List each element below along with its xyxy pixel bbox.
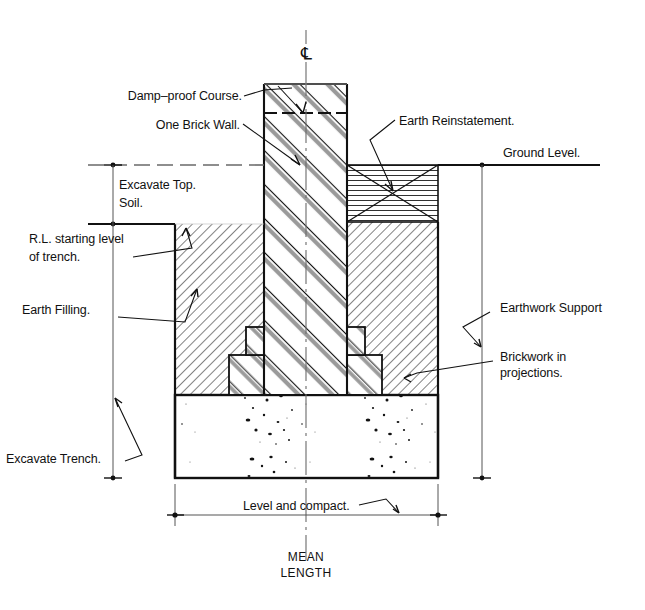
label-earth-filling: Earth Filling. <box>22 303 90 318</box>
label-mean-line1: MEAN <box>256 550 356 564</box>
rl-starting-level-line <box>88 222 175 227</box>
label-excavate-top-soil-line2: Soil. <box>119 196 143 211</box>
centreline-symbol: ℄ <box>296 44 316 64</box>
label-ground-level: Ground Level. <box>503 146 580 161</box>
technical-drawing-page: ℄ Damp–proof Course. One Brick Wall. Ear… <box>0 0 645 610</box>
label-brickwork-in-projections-line2: projections. <box>500 366 563 381</box>
label-earthwork-support: Earthwork Support <box>500 301 602 316</box>
earth-reinstatement-region <box>347 165 438 222</box>
label-mean-line2: LENGTH <box>256 566 356 580</box>
label-level-and-compact: Level and compact. <box>243 499 350 514</box>
label-excavate-trench: Excavate Trench. <box>6 452 101 467</box>
label-excavate-top-soil-line1: Excavate Top. <box>119 178 196 193</box>
label-rl-starting-level-line2: of trench. <box>29 250 80 265</box>
label-one-brick-wall: One Brick Wall. <box>80 118 240 133</box>
left-dimension-line <box>104 165 122 480</box>
label-earth-reinstatement: Earth Reinstatement. <box>399 114 514 129</box>
right-dimension-line <box>473 165 491 480</box>
label-rl-starting-level-line1: R.L. starting level <box>29 232 124 247</box>
label-damp-proof-course: Damp–proof Course. <box>60 89 242 104</box>
label-brickwork-in-projections-line1: Brickwork in <box>500 350 566 365</box>
